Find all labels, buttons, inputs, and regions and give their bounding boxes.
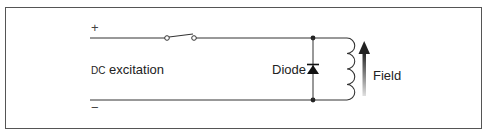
diode-label: Diode [272,63,306,76]
field-coil-icon [347,38,355,100]
switch-icon [165,34,197,40]
diode-icon [307,38,319,100]
dc-excitation-label: DC excitation [91,63,164,76]
field-arrow-icon [359,41,371,96]
negative-terminal-label: − [91,101,99,114]
positive-terminal-label: + [91,21,99,34]
field-label: Field [373,69,401,82]
circuit-diagram [0,0,490,139]
dc-excitation-text: DC excitation [91,62,164,77]
